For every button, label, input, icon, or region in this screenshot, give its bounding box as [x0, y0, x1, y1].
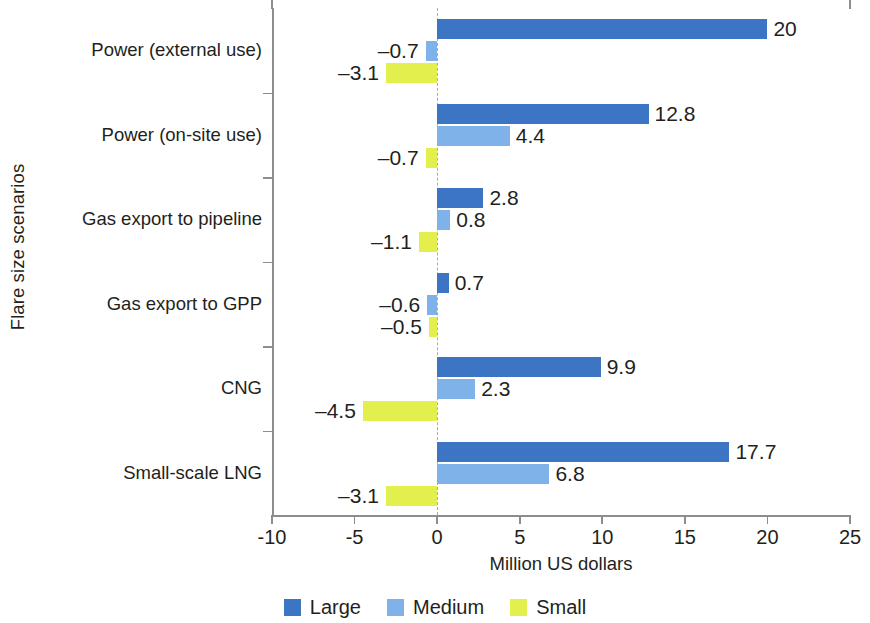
x-axis-tick [271, 515, 273, 524]
x-axis-tick [436, 515, 438, 524]
bar-value-label: 12.8 [655, 102, 696, 126]
bar-large [437, 104, 648, 124]
x-axis-title: Million US dollars [272, 553, 850, 575]
bar-value-label: –0.7 [378, 146, 419, 170]
x-axis-tick-label: 25 [839, 526, 861, 549]
x-axis-tick-label: -5 [346, 526, 364, 549]
x-axis-tick [684, 515, 686, 524]
bar-large [437, 273, 449, 293]
bar-large [437, 19, 767, 39]
bar-value-label: 6.8 [555, 462, 584, 486]
bar-value-label: –1.1 [371, 230, 412, 254]
bar-value-label: –3.1 [338, 484, 379, 508]
bar-large [437, 442, 729, 462]
x-axis-tick-label: 20 [756, 526, 778, 549]
bar-small [426, 148, 438, 168]
x-axis-tick [354, 515, 356, 524]
y-axis-line [272, 8, 274, 515]
x-axis-tick-label: 0 [432, 526, 443, 549]
bar-value-label: 2.3 [481, 377, 510, 401]
category-label: Gas export to pipeline [2, 208, 262, 230]
legend-swatch-icon [284, 599, 301, 616]
x-axis-line [272, 515, 850, 517]
bar-value-label: –4.5 [315, 399, 356, 423]
category-label: Small-scale LNG [2, 462, 262, 484]
bar-medium [437, 379, 475, 399]
x-axis-tick [767, 515, 769, 524]
bar-small [363, 401, 437, 421]
bar-medium [437, 210, 450, 230]
bar-medium [437, 126, 510, 146]
bar-value-label: 4.4 [516, 124, 545, 148]
x-axis-tick-label: 15 [674, 526, 696, 549]
legend-item[interactable]: Small [510, 596, 586, 619]
chart-legend: LargeMediumSmall [0, 596, 870, 619]
x-axis-tick-label: 10 [591, 526, 613, 549]
category-separator-tick [263, 93, 272, 95]
bar-value-label: 2.8 [489, 186, 518, 210]
bar-value-label: –0.5 [381, 315, 422, 339]
bar-small [386, 63, 437, 83]
x-axis-tick-top [271, 0, 273, 9]
bar-value-label: 20 [773, 17, 796, 41]
bar-value-label: 9.9 [607, 355, 636, 379]
bar-value-label: 0.7 [455, 271, 484, 295]
zero-reference-line [437, 8, 438, 515]
bar-large [437, 188, 483, 208]
legend-item[interactable]: Medium [387, 596, 484, 619]
bar-value-label: 17.7 [735, 440, 776, 464]
x-axis-tick [849, 515, 851, 524]
category-separator-tick [263, 346, 272, 348]
bar-small [419, 232, 437, 252]
bar-small [386, 486, 437, 506]
legend-label: Small [536, 596, 586, 619]
x-axis-tick-label: -10 [258, 526, 287, 549]
x-axis-tick [601, 515, 603, 524]
legend-label: Medium [413, 596, 484, 619]
category-label: CNG [2, 377, 262, 399]
bar-large [437, 357, 600, 377]
x-axis-tick [519, 515, 521, 524]
bar-value-label: –3.1 [338, 61, 379, 85]
legend-swatch-icon [510, 599, 527, 616]
legend-item[interactable]: Large [284, 596, 361, 619]
category-separator-tick [263, 177, 272, 179]
category-separator-tick [263, 431, 272, 433]
category-label: Power (external use) [2, 39, 262, 61]
bar-chart: Flare size scenarios Power (external use… [0, 0, 870, 623]
bar-value-label: –0.6 [379, 293, 420, 317]
plot-area: -10-5051015202520–0.7–3.112.84.4–0.72.80… [272, 8, 850, 515]
bar-value-label: –0.7 [378, 39, 419, 63]
bar-medium [426, 41, 438, 61]
bar-value-label: 0.8 [456, 208, 485, 232]
category-label: Gas export to GPP [2, 293, 262, 315]
category-label-group: Power (external use)Power (on-site use)G… [0, 8, 262, 515]
legend-swatch-icon [387, 599, 404, 616]
bar-medium [437, 464, 549, 484]
legend-label: Large [310, 596, 361, 619]
bar-medium [427, 295, 437, 315]
x-axis-tick-top [849, 0, 851, 9]
bar-small [429, 317, 437, 337]
category-separator-tick [263, 262, 272, 264]
x-axis-tick-label: 5 [514, 526, 525, 549]
category-label: Power (on-site use) [2, 124, 262, 146]
